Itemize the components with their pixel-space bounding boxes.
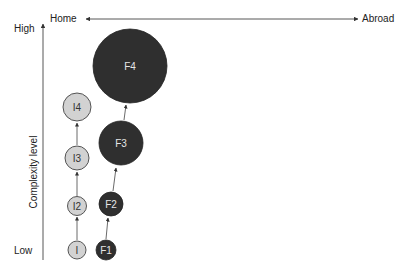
low-label: Low xyxy=(14,245,33,256)
node-i1: I xyxy=(68,241,86,259)
node-i2: I2 xyxy=(68,197,87,216)
arrow-f2-f3 xyxy=(113,168,116,191)
node-f2: F2 xyxy=(99,192,123,216)
node-f4-label: F4 xyxy=(124,61,136,72)
node-i2-label: I2 xyxy=(73,201,82,212)
node-i4: I4 xyxy=(63,93,91,121)
home-label: Home xyxy=(50,13,77,24)
node-f1: F1 xyxy=(96,240,116,260)
node-i3: I3 xyxy=(65,146,89,170)
home-abroad-axis: Home Abroad xyxy=(50,13,394,24)
node-f4: F4 xyxy=(93,29,167,103)
node-i3-label: I3 xyxy=(73,153,82,164)
abroad-label: Abroad xyxy=(362,13,394,24)
high-label: High xyxy=(14,23,35,34)
node-i4-label: I4 xyxy=(73,102,82,113)
complexity-axis-title: Complexity level xyxy=(28,136,39,209)
arrow-f1-f2 xyxy=(106,218,108,239)
arrow-f3-f4 xyxy=(124,105,126,120)
complexity-diagram: Home Abroad High Low Complexity level I … xyxy=(0,0,411,276)
node-f3: F3 xyxy=(99,121,143,165)
node-f2-label: F2 xyxy=(105,199,117,210)
complexity-axis: High Low Complexity level xyxy=(14,23,43,260)
node-i1-label: I xyxy=(76,245,79,256)
node-f1-label: F1 xyxy=(100,245,112,256)
node-f3-label: F3 xyxy=(115,138,127,149)
